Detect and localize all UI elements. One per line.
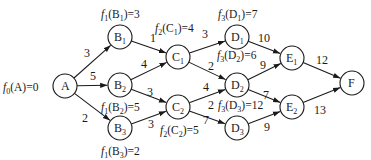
edge-weight-label: 7: [263, 88, 269, 102]
edge-weight-label: 10: [258, 31, 270, 45]
node-b2: B2: [108, 73, 132, 97]
stage-value-a: f0(A)=0: [3, 81, 39, 96]
edge-weight-label: 3: [147, 85, 153, 99]
edge-weight-label: 4: [203, 80, 209, 94]
edge-weight-label: 2: [208, 59, 214, 73]
stage-value-labels: f0(A)=0f1(B1)=3f1(B2)=5f1(B3)=2f2(C1)=4f…: [3, 8, 263, 160]
stray-number-label: 2: [208, 98, 214, 112]
edge-d2-e1: 9: [248, 58, 281, 80]
edge-weight-label: 3: [202, 27, 208, 41]
node-c2: C2: [166, 95, 190, 119]
stage-value-b1: f1(B1)=3: [101, 8, 140, 23]
stage-value-d1: f3(D1)=7: [218, 8, 258, 23]
edge-b2-c2: 3: [131, 85, 166, 103]
node-d2: D2: [225, 73, 249, 97]
edge-weight-label: 12: [316, 53, 328, 67]
node-f: F: [340, 71, 364, 95]
edge-weight-label: 9: [260, 58, 266, 72]
stage-value-d3: f3(D3)=12: [218, 99, 263, 114]
edge-weight-label: 13: [314, 103, 326, 117]
stage-value-d2: f3(D2)=6: [217, 49, 257, 64]
stage-value-b2: f1(B2)=5: [101, 101, 140, 116]
edge-e2-f: 13: [303, 88, 340, 117]
node-d1: D1: [225, 25, 249, 49]
shortest-path-network-diagram: 35214333247109791213 AB1B2B3C1C2D1D2D3E1…: [0, 0, 371, 160]
edge-weight-label: 3: [148, 117, 154, 131]
node-label: A: [61, 79, 70, 93]
edge-weight-label: 4: [141, 57, 147, 71]
node-c1: C1: [166, 45, 190, 69]
node-d3: D3: [225, 116, 249, 140]
node-label: F: [348, 76, 355, 90]
node-e2: E2: [280, 95, 304, 119]
edge-b2-c1: 4: [131, 57, 167, 80]
edge-weight-label: 5: [90, 69, 96, 83]
node-b1: B1: [108, 25, 132, 49]
edge-weight-label: 7: [203, 113, 209, 127]
edge-d3-e2: 9: [248, 112, 280, 135]
edge-weight-label: 2: [82, 111, 88, 125]
edge-e1-f: 12: [303, 53, 340, 78]
stage-value-c1: f2(C1)=4: [155, 22, 194, 37]
node-b3: B3: [108, 116, 132, 140]
stage-value-c2: f2(C2)=5: [160, 124, 199, 139]
edge-weight-label: 3: [84, 46, 90, 60]
edge-weight-label: 9: [264, 120, 270, 134]
stage-value-b3: f1(B3)=2: [101, 145, 140, 160]
node-e1: E1: [280, 46, 304, 70]
node-a: A: [53, 74, 77, 98]
